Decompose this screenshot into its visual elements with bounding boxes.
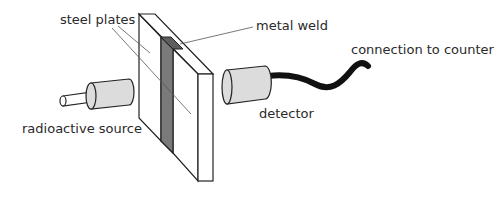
- detector-face: [222, 70, 232, 104]
- source-rod-end: [60, 96, 66, 106]
- detector-cylinder: [227, 66, 271, 104]
- metal-weld-leader: [180, 27, 253, 44]
- source-cylinder: [91, 79, 134, 109]
- counter-cable: [268, 63, 368, 87]
- radioactive-source: [60, 79, 134, 109]
- source-cylinder-face: [86, 83, 96, 109]
- steel-plates-label: steel plates: [60, 12, 136, 27]
- detector: [222, 63, 368, 104]
- plate-side-face: [198, 74, 213, 181]
- weld-inspection-diagram: steel plates metal weld connection to co…: [0, 0, 504, 200]
- radioactive-source-label: radioactive source: [22, 121, 142, 136]
- metal-weld-label: metal weld: [256, 18, 328, 33]
- metal-weld-front: [161, 37, 173, 153]
- detector-label: detector: [259, 106, 315, 121]
- connection-to-counter-label: connection to counter: [351, 42, 495, 57]
